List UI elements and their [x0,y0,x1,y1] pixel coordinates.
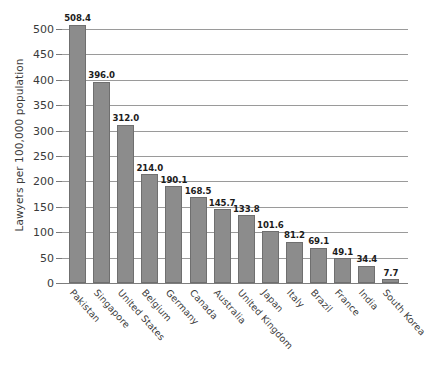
gridline [62,54,408,55]
y-axis-title: Lawyers per 100,000 population [10,0,28,290]
bar-chart: Lawyers per 100,000 population 050100150… [0,0,428,369]
bar [238,215,255,283]
bar-value-label: 312.0 [112,113,139,123]
gridline [62,232,408,233]
bar [93,82,110,283]
x-axis-category-label: South Korea [381,287,428,337]
y-axis-tick-mark [56,181,62,182]
bar [286,242,303,283]
y-axis-tick-mark [56,283,62,284]
gridline [62,29,408,30]
y-axis-tick-mark [56,105,62,106]
bar-value-label: 145.7 [209,198,236,208]
axis-baseline [62,283,408,284]
y-axis-tick-label: 50 [40,251,54,264]
bar [165,186,182,283]
plot-area: 050100150200250300350400450500 508.4396.… [62,29,408,283]
bar [190,197,207,283]
bar-value-label: 133.8 [233,204,260,214]
y-axis-tick-mark [56,207,62,208]
bar [69,25,86,283]
bar [334,258,351,283]
gridline [62,156,408,157]
bar [262,231,279,283]
bar [382,279,399,283]
y-axis-tick-label: 400 [33,73,54,86]
gridline [62,181,408,182]
y-axis-tick-label: 250 [33,150,54,163]
bar-value-label: 190.1 [161,175,188,185]
bar-value-label: 508.4 [64,13,91,23]
y-axis-tick-label: 150 [33,200,54,213]
bar-value-label: 101.6 [257,220,284,230]
bar-value-label: 34.4 [356,254,377,264]
bar [310,248,327,283]
y-axis-tick-label: 300 [33,124,54,137]
y-axis-tick-label: 200 [33,175,54,188]
y-axis-tick-mark [56,29,62,30]
y-axis-tick-mark [56,156,62,157]
y-axis-tick-mark [56,258,62,259]
bar-value-label: 69.1 [308,236,329,246]
y-axis-tick-mark [56,80,62,81]
bar-value-label: 214.0 [136,163,163,173]
bar [141,174,158,283]
bar-value-label: 49.1 [332,247,353,257]
y-axis-tick-mark [56,54,62,55]
bar [117,125,134,283]
y-axis-tick-label: 100 [33,226,54,239]
bar-value-label: 396.0 [88,70,115,80]
x-axis-category-label: Italy [284,287,306,310]
y-axis-tick-mark [56,131,62,132]
bar-value-label: 81.2 [284,230,305,240]
bar-value-label: 168.5 [185,186,212,196]
y-axis-tick-label: 450 [33,48,54,61]
x-axis-category-label: Brazil [308,287,334,314]
bar [214,209,231,283]
bar-value-label: 7.7 [383,268,398,278]
y-axis-tick-label: 500 [33,23,54,36]
y-axis-tick-mark [56,232,62,233]
bar [358,266,375,283]
y-axis-tick-label: 350 [33,99,54,112]
y-axis-tick-label: 0 [47,277,54,290]
gridline [62,105,408,106]
x-axis-category-label: France [333,287,362,318]
gridline [62,131,408,132]
